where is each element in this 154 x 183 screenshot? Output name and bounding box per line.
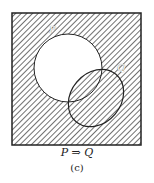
set-q-label: Q xyxy=(117,62,125,73)
set-p-label: P xyxy=(49,24,56,35)
diagram-caption: P ⇒ Q xyxy=(0,146,154,159)
universal-set xyxy=(12,13,141,145)
diagram-subcaption: (c) xyxy=(0,162,154,173)
